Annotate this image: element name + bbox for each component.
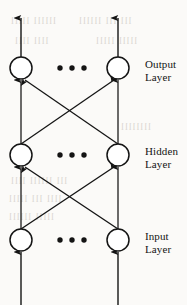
neuron-node-output-0 (10, 57, 32, 79)
ellipsis-group (57, 65, 86, 242)
connection-input-to-hidden-cross-3 (25, 167, 118, 229)
layer-label-output: Output Layer (145, 58, 176, 83)
neuron-node-hidden-1 (107, 144, 129, 166)
connection-input-to-hidden-cross-2 (21, 167, 114, 229)
ellipsis-dot-hidden-2 (81, 152, 86, 157)
layer-label-hidden-line1: Hidden (145, 145, 178, 158)
ellipsis-dot-output-2 (81, 65, 86, 70)
ellipsis-dot-input-1 (69, 237, 74, 242)
neural-network-figure: llllll llllllll lll llllllllll lllllllll… (0, 0, 187, 305)
layer-label-input-line1: Input (145, 230, 171, 243)
neuron-node-output-1 (107, 57, 129, 79)
neuron-node-hidden-0 (10, 144, 32, 166)
ellipsis-dot-input-0 (57, 237, 62, 242)
layer-label-input: Input Layer (145, 230, 171, 255)
layer-label-hidden: Hidden Layer (145, 145, 178, 170)
ellipsis-dot-output-1 (69, 65, 74, 70)
neuron-node-input-1 (107, 229, 129, 251)
ellipsis-dot-hidden-0 (57, 152, 62, 157)
layer-label-input-line2: Layer (145, 243, 171, 256)
neuron-node-input-0 (10, 229, 32, 251)
layer-label-output-line1: Output (145, 58, 176, 71)
ellipsis-dot-hidden-1 (69, 152, 74, 157)
layer-label-output-line2: Layer (145, 71, 176, 84)
layer-label-hidden-line2: Layer (145, 158, 178, 171)
connection-hidden-to-output-cross-3 (25, 80, 118, 144)
ellipsis-dot-output-0 (57, 65, 62, 70)
ellipsis-dot-input-2 (81, 237, 86, 242)
connection-hidden-to-output-cross-2 (21, 80, 114, 144)
external-arrows-group (21, 18, 118, 305)
